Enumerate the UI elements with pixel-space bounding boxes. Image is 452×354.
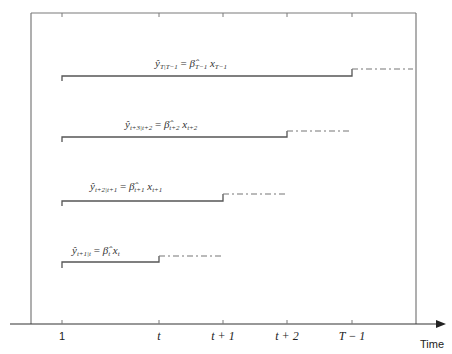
tick-label-t-plus-2: t + 2 (275, 329, 298, 343)
equation-row-4: ŷt+1|t = β̂t xt (71, 244, 121, 258)
forecast-row-T: ŷT|T−1 = β̂T−1 xT−1 (62, 57, 413, 81)
axis-label-time: Time (420, 338, 444, 350)
tick-label-T-minus-1: T − 1 (339, 329, 366, 343)
time-axis: 1 t t + 1 t + 2 T − 1 Time (10, 320, 446, 350)
axis-arrow-icon (436, 320, 446, 328)
equation-row-3: ŷt+2|t+1 = β̂t+1 xt+1 (89, 180, 162, 194)
plot-frame (31, 13, 416, 324)
forecast-row-t-plus-1: ŷt+2|t+1 = β̂t+1 xt+1 (62, 180, 287, 206)
tick-label-1: 1 (59, 330, 65, 342)
equation-row-1: ŷT|T−1 = β̂T−1 xT−1 (154, 57, 227, 71)
tick-label-t: t (157, 329, 161, 343)
forecast-timeline-diagram: 1 t t + 1 t + 2 T − 1 Time ŷT|T−1 = β̂T−… (0, 0, 452, 354)
tick-label-t-plus-1: t + 1 (211, 329, 234, 343)
forecast-row-t: ŷt+1|t = β̂t xt (62, 244, 222, 268)
equation-row-2: ŷt+3|t+2 = β̂t+2 xt+2 (124, 118, 198, 132)
forecast-row-t-plus-2: ŷt+3|t+2 = β̂t+2 xt+2 (62, 118, 350, 142)
